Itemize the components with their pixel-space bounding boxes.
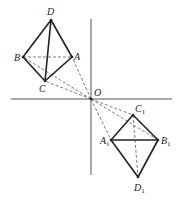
label-O: O	[94, 87, 101, 98]
point-C1	[132, 114, 135, 117]
label-A: A	[73, 51, 81, 62]
label-C1: C1	[135, 103, 146, 116]
label-B: B	[14, 52, 20, 63]
point-B1	[157, 139, 160, 142]
edge-C-A	[45, 57, 72, 81]
edge-O-B	[23, 57, 91, 99]
edge-C1-B1	[133, 115, 158, 140]
label-D1: D1	[133, 182, 145, 195]
edge-A1-C1	[111, 115, 133, 140]
point-O	[90, 98, 93, 101]
edge-B1-D1	[138, 140, 158, 177]
edge-B-C	[23, 57, 45, 81]
point-C	[44, 80, 47, 83]
tetrahedron-central-symmetry-diagram: O D B A C C1 A1 B1 D1	[0, 0, 181, 204]
edge-C1-D1	[133, 115, 138, 177]
label-B1: B1	[161, 135, 171, 148]
edge-D-A	[51, 20, 72, 57]
point-D1	[137, 176, 140, 179]
edge-D-B	[23, 20, 51, 57]
point-D	[50, 19, 53, 22]
label-D: D	[46, 6, 55, 17]
point-A	[71, 56, 74, 59]
label-C: C	[39, 83, 46, 94]
point-A1	[110, 139, 113, 142]
edge-D-C	[45, 20, 51, 81]
edge-O-C1	[91, 99, 133, 115]
label-A1: A1	[99, 135, 110, 148]
edge-A1-D1	[111, 140, 138, 177]
point-B	[22, 56, 25, 59]
